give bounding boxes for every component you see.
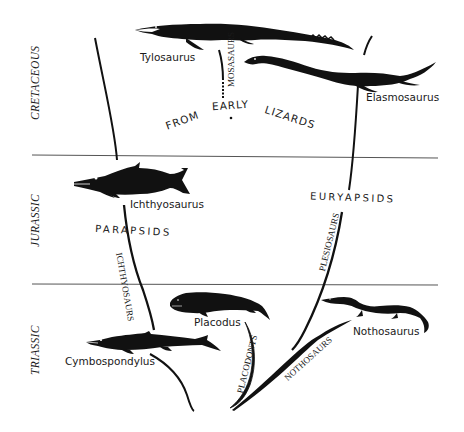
period-label-cretaceous: CRETACEOUS (30, 46, 42, 120)
origin-note-early: EARLY (212, 99, 250, 112)
cymbospondylus-silhouette (86, 331, 221, 354)
marine-reptile-evolution-diagram: CRETACEOUS JURASSIC TRIASSIC Tylosaurus … (0, 0, 464, 432)
period-label-jurassic: JURASSIC (30, 194, 42, 247)
divider-jurassic-triassic (32, 284, 438, 285)
period-label-triassic: TRIASSIC (30, 325, 42, 375)
tylosaurus-silhouette (135, 24, 354, 50)
mosasaur-lineage-line (219, 50, 223, 80)
mosasaur-origin-dot (230, 117, 233, 120)
elasmosaurus-silhouette (244, 56, 436, 92)
plesiosaur-lineage-line-top (364, 36, 372, 55)
lineage-label-mosasaurs: MOSASAURS (227, 32, 236, 87)
animal-label-placodus: Placodus (194, 317, 241, 328)
animal-label-cymbospondylus: Cymbospondylus (65, 356, 155, 367)
ichthyosaur-lineage-line (95, 38, 117, 160)
divider-cretaceous-jurassic (32, 155, 438, 158)
plesiosaur-lineage-line (349, 85, 358, 190)
animal-label-tylosaurus: Tylosaurus (140, 52, 195, 63)
animal-label-elasmosaurus: Elasmosaurus (366, 92, 439, 103)
ichthyosaurus-silhouette (74, 162, 190, 198)
animal-label-nothosaurus: Nothosaurus (353, 326, 419, 337)
cymbospondylus-branch (150, 354, 194, 411)
animal-label-ichthyosaurus: Ichthyosaurus (130, 199, 204, 210)
